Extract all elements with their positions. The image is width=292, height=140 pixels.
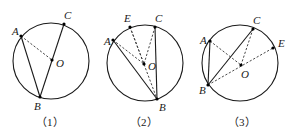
label-a: A (199, 34, 207, 46)
radius-ao (21, 36, 52, 60)
figure-1: A C O B （1） (11, 9, 89, 128)
point-o (50, 58, 53, 61)
point-b (38, 95, 41, 98)
label-o: O (241, 68, 249, 80)
point-o (142, 62, 145, 65)
point-a (19, 34, 22, 37)
label-c: C (155, 12, 163, 24)
point-c (153, 25, 156, 28)
radius-ao (210, 41, 241, 65)
point-a (111, 38, 114, 41)
point-c (251, 27, 254, 30)
label-c: C (64, 9, 72, 21)
point-b (206, 83, 209, 86)
label-c: C (253, 14, 261, 26)
caption-1: （1） (36, 116, 64, 128)
label-b: B (34, 100, 41, 112)
chord-ab (208, 41, 210, 85)
point-o (239, 63, 242, 66)
label-e: E (277, 37, 285, 49)
radius-co (144, 27, 155, 64)
label-b: B (159, 101, 166, 113)
point-e (271, 46, 274, 49)
label-a: A (11, 25, 19, 37)
label-o: O (148, 60, 156, 72)
figure-3: A C E O B （3） (199, 14, 285, 128)
point-a (208, 39, 211, 42)
label-a: A (103, 35, 111, 47)
radius-co (241, 29, 253, 65)
figure-2: A E C O B （2） (103, 12, 183, 128)
caption-2: （2） (130, 116, 158, 128)
point-c (62, 22, 65, 25)
circle-o (202, 25, 278, 101)
label-b: B (199, 84, 206, 96)
label-e: E (123, 12, 131, 24)
label-o: O (56, 57, 64, 69)
geometry-figures: A C O B （1） A E C O B （2） (0, 0, 292, 140)
caption-3: （3） (228, 116, 256, 128)
point-e (128, 25, 131, 28)
